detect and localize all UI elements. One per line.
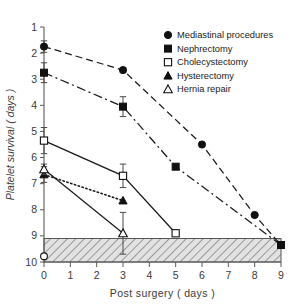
x-tick-label: 3 [120,269,126,281]
x-tick-label: 2 [94,269,100,281]
data-point-filled-circle [251,211,258,218]
x-tick-label: 7 [225,269,231,281]
series-line-mediastinal-procedures [44,47,281,245]
x-tick-label: 0 [41,269,47,281]
y-tick-label: 10 [25,256,37,268]
x-tick-label: 6 [199,269,205,281]
y-tick-label: 9 [31,229,37,241]
y-tick-label: 5 [31,125,37,137]
data-point-filled-square [41,69,48,76]
legend-label: Hysterectomy [177,71,234,81]
data-point-open-square [119,172,126,179]
legend-label: Nephrectomy [177,44,233,54]
y-tick-label: 3 [31,73,37,85]
data-point-open-square [172,230,179,237]
chart-canvas: 123456789100123456789Platelet survival (… [0,0,303,307]
x-tick-label: 5 [173,269,179,281]
x-tick-label: 1 [67,269,73,281]
x-tick-label: 8 [252,269,258,281]
y-tick-label: 6 [31,151,37,163]
x-tick-label: 4 [146,269,152,281]
y-tick-label: 4 [31,99,37,111]
data-point-filled-circle [119,66,126,73]
legend-label: Cholecystectomy [177,57,248,67]
legend-label: Hernia repair [177,84,231,94]
shaded-normal-range-band [44,239,281,263]
legend-marker-filled-circle [164,31,171,38]
x-axis-title: Post surgery ( days ) [110,287,215,299]
data-point-open-triangle [40,165,49,173]
x-tick-label: 9 [278,269,284,281]
y-tick-label: 7 [31,177,37,189]
legend-marker-open-square [164,59,171,66]
y-tick-label: 1 [31,21,37,33]
data-point-filled-square [278,242,285,249]
data-point-filled-circle [198,141,205,148]
legend-marker-filled-square [165,45,172,52]
series-line-hernia-repair [44,169,123,233]
y-tick-label: 8 [31,203,37,215]
platelet-survival-chart: 123456789100123456789Platelet survival (… [0,0,303,307]
unlabeled-open-circle [41,253,48,260]
series-line-cholecystectomy [44,141,176,234]
legend-marker-filled-triangle [164,72,172,80]
data-point-filled-square [172,163,179,170]
data-point-open-square [40,137,47,144]
y-axis-title: Platelet survival ( days ) [4,89,16,200]
y-tick-label: 2 [31,47,37,59]
data-point-filled-square [120,103,127,110]
data-point-filled-circle [40,43,47,50]
legend-marker-open-triangle [164,85,173,93]
legend-label: Mediastinal procedures [177,30,273,40]
